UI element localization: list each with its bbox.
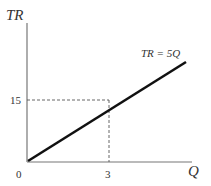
curve-label: TR = 5Q bbox=[141, 47, 180, 59]
y-tick-label: 15 bbox=[10, 94, 22, 106]
y-axis-label: TR bbox=[6, 7, 24, 23]
chart: TR Q 0 3 15 TR = 5Q bbox=[0, 0, 211, 186]
tr-line bbox=[28, 62, 186, 161]
x-axis-label: Q bbox=[188, 163, 199, 179]
x-tick-label: 3 bbox=[105, 168, 111, 180]
origin-label: 0 bbox=[16, 168, 22, 180]
